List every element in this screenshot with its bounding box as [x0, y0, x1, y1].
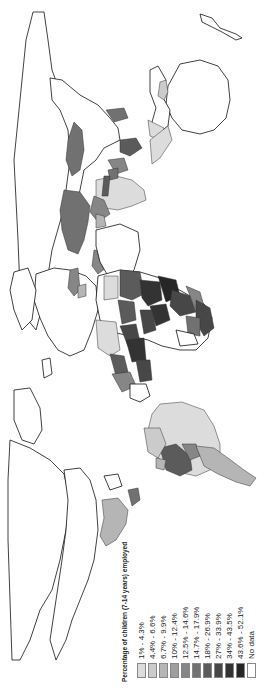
australia	[166, 60, 230, 134]
caribbean	[104, 474, 122, 490]
japan	[200, 14, 242, 40]
argentina-chile-region	[196, 446, 256, 486]
tanzania-region	[126, 338, 146, 362]
greenland	[14, 388, 42, 444]
central-america-region	[128, 488, 140, 506]
myanmar-region	[120, 138, 142, 156]
ecuador-region	[156, 458, 166, 470]
kazakhstan-region	[60, 190, 90, 254]
drc-region	[96, 320, 120, 356]
egypt-region	[104, 276, 118, 300]
balkan-region	[78, 284, 86, 298]
europe	[34, 268, 98, 356]
south-africa	[130, 384, 150, 402]
mozambique-region	[136, 360, 152, 382]
uk-ireland	[42, 358, 52, 378]
mexico	[100, 498, 128, 546]
world-map	[0, 0, 274, 688]
